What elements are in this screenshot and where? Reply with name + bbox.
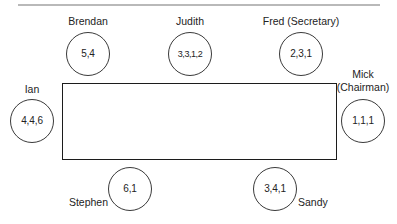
seat-judith-values: 3,3,1,2 <box>178 50 202 59</box>
seating-diagram: Brendan 5,4 Judith 3,3,1,2 Fred (Secreta… <box>0 0 397 224</box>
seat-judith-label: Judith <box>158 15 222 27</box>
seat-sandy-values: 3,4,1 <box>264 184 286 194</box>
seat-judith-circle: 3,3,1,2 <box>168 32 212 76</box>
seat-fred-label: Fred (Secretary) <box>248 15 354 27</box>
seat-stephen-circle: 6,1 <box>108 167 152 211</box>
seat-sandy-circle: 3,4,1 <box>253 167 297 211</box>
seat-mick-label-line2: (Chairman) <box>325 81 397 94</box>
seat-fred-circle: 2,3,1 <box>279 32 323 76</box>
seat-ian-circle: 4,4,6 <box>10 99 54 143</box>
seat-mick-values: 1,1,1 <box>352 116 374 126</box>
seat-mick-label: Mick (Chairman) <box>325 68 397 93</box>
meeting-table <box>62 83 337 160</box>
seat-stephen-values: 6,1 <box>123 184 137 194</box>
top-divider-rule <box>18 4 380 6</box>
seat-fred-values: 2,3,1 <box>290 49 312 59</box>
seat-mick-circle: 1,1,1 <box>341 99 385 143</box>
seat-sandy-label: Sandy <box>298 196 346 208</box>
seat-ian-values: 4,4,6 <box>21 116 43 126</box>
seat-brendan-values: 5,4 <box>81 49 95 59</box>
seat-brendan-circle: 5,4 <box>66 32 110 76</box>
seat-ian-label: Ian <box>10 83 54 95</box>
seat-stephen-label: Stephen <box>60 196 108 208</box>
seat-brendan-label: Brendan <box>56 15 120 27</box>
seat-mick-label-line1: Mick <box>325 68 397 81</box>
